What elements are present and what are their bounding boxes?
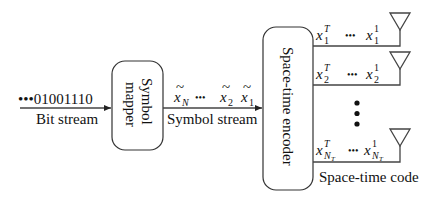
- symbol-mapper-label-line1: Symbol: [139, 78, 155, 125]
- bit-stream-label: Bit stream: [36, 111, 98, 127]
- svg-text:1: 1: [374, 23, 379, 34]
- symbol-stream-group: ~ x N ••• ~ x 2 ~ x 1 Symbol stream: [163, 79, 262, 127]
- symbol-xN: ~ x N: [173, 79, 190, 108]
- antenna-icon: [390, 13, 410, 30]
- svg-text:1: 1: [374, 35, 379, 46]
- space-time-coding-diagram: •••01001110 Bit stream Symbol mapper ~ x…: [0, 0, 438, 202]
- svg-text:T: T: [324, 23, 331, 34]
- svg-text:1: 1: [374, 62, 379, 73]
- output-row-1: x T 1 ••• x 1 1: [313, 13, 410, 46]
- svg-text:x: x: [240, 89, 248, 105]
- symbol-stream-label: Symbol stream: [167, 111, 258, 127]
- svg-text:x: x: [219, 89, 227, 105]
- svg-text:T: T: [324, 62, 331, 73]
- output-row-2: x T 2 ••• x 1 2: [313, 52, 410, 85]
- symbol-mapper-label-line2: mapper: [123, 82, 139, 127]
- output-row-nt: x T N T ••• x 1 N T: [313, 129, 410, 163]
- svg-text:2: 2: [374, 74, 379, 85]
- symbol-x2: ~ x 2: [219, 79, 233, 108]
- svg-text:2: 2: [324, 74, 329, 85]
- svg-text:x: x: [173, 89, 181, 105]
- svg-text:2: 2: [228, 97, 233, 108]
- svg-text:1: 1: [249, 97, 254, 108]
- symbol-mapper-block: Symbol mapper: [112, 61, 163, 150]
- svg-text:N: N: [181, 97, 190, 108]
- antenna-icon: [390, 52, 410, 69]
- svg-text:x: x: [365, 27, 373, 43]
- space-time-code-label: Space-time code: [319, 169, 419, 185]
- svg-text:•••: •••: [348, 145, 359, 156]
- svg-text:•••: •••: [347, 69, 358, 80]
- vertical-ellipsis-icon: [354, 100, 359, 126]
- svg-text:x: x: [315, 27, 323, 43]
- svg-text:1: 1: [372, 138, 377, 149]
- svg-text:•••: •••: [345, 30, 356, 41]
- svg-text:x: x: [363, 142, 371, 158]
- space-time-encoder-label: Space-time encoder: [280, 47, 296, 166]
- symbol-ellipsis: •••: [195, 92, 206, 103]
- svg-text:x: x: [365, 66, 373, 82]
- svg-text:T: T: [324, 138, 331, 149]
- antenna-icon: [390, 129, 410, 146]
- symbol-x1: ~ x 1: [240, 79, 254, 108]
- svg-text:x: x: [315, 66, 323, 82]
- svg-text:x: x: [315, 142, 323, 158]
- bit-stream-value: •••01001110: [18, 91, 93, 107]
- svg-text:1: 1: [324, 35, 329, 46]
- bit-stream-group: •••01001110 Bit stream: [18, 91, 111, 127]
- space-time-encoder-block: Space-time encoder: [263, 27, 313, 190]
